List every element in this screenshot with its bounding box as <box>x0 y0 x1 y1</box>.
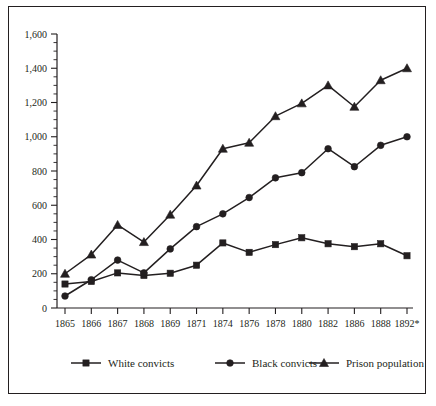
circle-data-marker <box>62 293 69 300</box>
x-axis-label: 1892* <box>395 318 420 329</box>
x-axis-ticks <box>65 308 407 314</box>
circle-data-marker <box>167 246 174 253</box>
triangle-data-marker <box>271 112 280 120</box>
x-axis-label: 1888 <box>371 318 391 329</box>
triangle-data-marker <box>324 81 333 89</box>
square-data-marker <box>83 360 89 366</box>
square-data-marker <box>246 249 252 255</box>
x-axis-label: 1882 <box>318 318 338 329</box>
y-axis-label: 1,000 <box>25 131 48 142</box>
circle-data-marker <box>404 133 411 140</box>
circle-data-marker <box>219 210 226 217</box>
y-axis-ticks <box>51 34 57 308</box>
legend-item-circle[interactable]: Black convicts <box>215 357 317 369</box>
x-axis-label: 1874 <box>213 318 233 329</box>
legend-item-square[interactable]: White convicts <box>71 357 174 369</box>
square-data-marker <box>378 241 384 247</box>
square-data-marker <box>272 242 278 248</box>
y-axis-label: 1,600 <box>25 29 48 40</box>
y-axis-label: 600 <box>32 200 47 211</box>
square-data-marker <box>115 270 121 276</box>
line-chart: 02004006008001,0001,2001,4001,600 186518… <box>9 7 427 395</box>
chart-plot-container: 02004006008001,0001,2001,4001,600 186518… <box>9 7 427 395</box>
x-axis-label: 1869 <box>160 318 180 329</box>
square-data-marker <box>299 235 305 241</box>
circle-data-marker <box>114 257 121 264</box>
triangle-data-marker <box>376 76 385 84</box>
circle-data-marker <box>246 194 253 201</box>
x-axis-label: 1865 <box>55 318 75 329</box>
square-data-marker <box>325 241 331 247</box>
x-axis-label: 1871 <box>187 318 207 329</box>
y-axis-label: 1,200 <box>25 97 48 108</box>
series-triangle <box>61 64 412 278</box>
square-data-marker <box>404 253 410 259</box>
y-axis-label: 0 <box>42 303 47 314</box>
x-axis-label: 1868 <box>134 318 154 329</box>
x-axis-label: 1878 <box>265 318 285 329</box>
square-data-marker <box>193 262 199 268</box>
circle-data-marker <box>193 223 200 230</box>
triangle-data-marker <box>61 269 70 277</box>
legend-label: Prison population <box>346 357 424 369</box>
data-series-group <box>61 64 412 300</box>
triangle-data-marker <box>403 64 412 72</box>
chart-figure-frame: 02004006008001,0001,2001,4001,600 186518… <box>8 6 426 394</box>
y-axis-label: 800 <box>32 166 47 177</box>
series-line <box>65 68 407 274</box>
y-axis-label: 400 <box>32 234 47 245</box>
triangle-data-marker <box>113 220 122 228</box>
y-axis-tick-labels: 02004006008001,0001,2001,4001,600 <box>25 29 48 314</box>
x-axis-label: 1867 <box>108 318 128 329</box>
legend-item-triangle[interactable]: Prison population <box>309 357 424 369</box>
chart-legend: White convictsBlack convictsPrison popul… <box>71 357 424 369</box>
circle-data-marker <box>377 142 384 149</box>
x-axis-label: 1866 <box>81 318 101 329</box>
circle-data-marker <box>141 270 148 277</box>
triangle-data-marker <box>297 99 306 107</box>
circle-data-marker <box>325 145 332 152</box>
x-axis-tick-labels: 1865186618671868186918711874187618781880… <box>55 318 420 329</box>
y-axis-label: 200 <box>32 268 47 279</box>
square-data-marker <box>220 240 226 246</box>
chart-axes <box>57 34 413 308</box>
square-data-marker <box>351 244 357 250</box>
legend-label: White convicts <box>108 357 174 369</box>
circle-data-marker <box>272 175 279 182</box>
square-data-marker <box>62 281 68 287</box>
x-axis-label: 1876 <box>239 318 259 329</box>
square-data-marker <box>167 270 173 276</box>
circle-data-marker <box>227 360 234 367</box>
y-axis-label: 1,400 <box>25 63 48 74</box>
circle-data-marker <box>88 276 95 283</box>
circle-data-marker <box>351 163 358 170</box>
x-axis-label: 1880 <box>292 318 312 329</box>
x-axis-label: 1886 <box>344 318 364 329</box>
circle-data-marker <box>298 169 305 176</box>
legend-label: Black convicts <box>252 357 317 369</box>
